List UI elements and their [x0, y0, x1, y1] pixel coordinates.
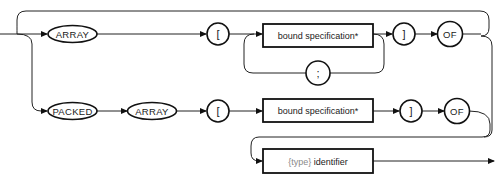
- row1-of-keyword: OF: [438, 22, 463, 47]
- array-keyword-label: ARRAY: [135, 106, 169, 117]
- array-keyword-label: ARRAY: [56, 29, 90, 40]
- row1-separator-semicolon: ;: [306, 61, 330, 85]
- open-bracket-label: [: [216, 105, 219, 117]
- row2-packed-keyword: PACKED: [48, 103, 97, 120]
- close-bracket-label: ]: [402, 28, 405, 40]
- packed-keyword-label: PACKED: [52, 106, 92, 117]
- bound-spec-label: bound specification*: [278, 106, 359, 116]
- row2-open-bracket: [: [207, 100, 229, 122]
- row1-close-bracket: ]: [393, 23, 415, 45]
- open-bracket-label: [: [216, 28, 219, 40]
- semicolon-label: ;: [316, 67, 319, 79]
- row1-array-keyword: ARRAY: [48, 26, 97, 43]
- array-type-syntax-diagram: ARRAY [ bound specification* ; ] OF PACK…: [0, 0, 495, 176]
- type-prefix: {type}: [288, 157, 311, 167]
- of-keyword-label: OF: [450, 106, 464, 117]
- row3-type-identifier-box: {type} identifier: [263, 149, 373, 173]
- row1-open-bracket: [: [207, 23, 229, 45]
- row1-bound-spec-box: bound specification*: [263, 24, 373, 47]
- close-bracket-label: ]: [409, 105, 412, 117]
- row2-of-keyword: OF: [445, 99, 470, 124]
- of-keyword-label: OF: [443, 29, 457, 40]
- row2-close-bracket: ]: [400, 100, 422, 122]
- type-identifier-label: {type} identifier: [288, 157, 348, 167]
- bound-spec-label: bound specification*: [278, 31, 359, 41]
- row2-bound-spec-box: bound specification*: [263, 99, 373, 122]
- identifier-text: identifier: [311, 157, 348, 167]
- row2-array-keyword: ARRAY: [128, 103, 177, 120]
